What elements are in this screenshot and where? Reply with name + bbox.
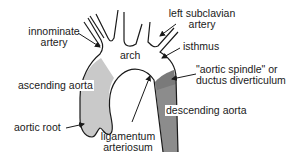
left-subclavian-label-line2: artery [160,19,244,30]
ligamentum-label: ligamentum arteriosum [96,131,160,153]
ligamentum-arrow [132,76,150,122]
aortic-root-label: aortic root [14,122,61,133]
descending-aorta-label: descending aorta [165,105,248,116]
aortic-spindle-label-line2: ductus diverticulum [196,75,286,86]
aorta-diagram: innominate artery left subclavian artery… [0,0,307,158]
ascending-aorta-shape [80,58,114,137]
ligamentum-label-line2: arteriosum [96,142,160,153]
arch-label: arch [120,50,140,61]
innominate-label: innominate artery [26,26,82,48]
isthmus-label: isthmus [183,41,219,52]
aortic-spindle-label: "aortic spindle" or ductus diverticulum [196,64,286,86]
isthmus-arrow [162,48,180,58]
ascending-aorta-label: ascending aorta [17,80,94,91]
left-subclavian-label: left subclavian artery [160,8,244,30]
innominate-label-line2: artery [26,37,82,48]
